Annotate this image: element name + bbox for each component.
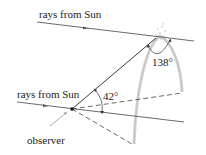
angle-42-arc <box>95 90 102 112</box>
rainbow-angle-diagram: rays from Sun rays from Sun 42° 138° obs… <box>0 0 206 155</box>
rainbow-arc <box>134 36 182 144</box>
top-ray-label: rays from Sun <box>39 8 102 20</box>
angle-138-label: 138° <box>152 56 173 68</box>
observer-point <box>70 107 74 111</box>
observer-label: observer <box>27 134 65 146</box>
angle-42-label: 42° <box>103 90 118 102</box>
top-sun-ray <box>37 22 194 41</box>
dashed-line-lower <box>72 109 132 144</box>
observer-pointer-line <box>50 112 67 126</box>
bottom-ray-label: rays from Sun <box>17 88 80 100</box>
